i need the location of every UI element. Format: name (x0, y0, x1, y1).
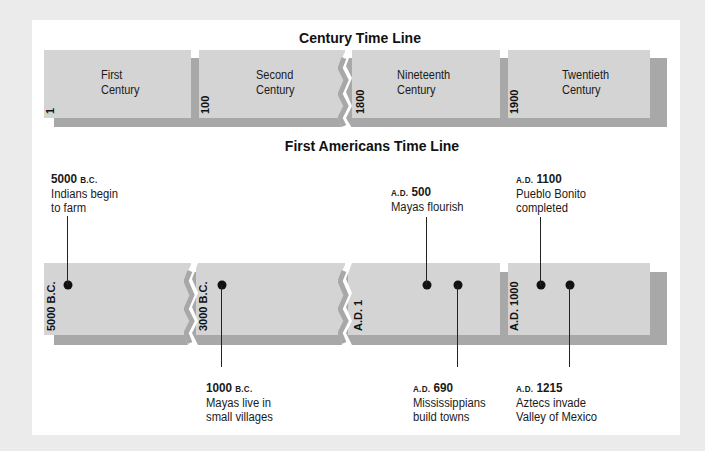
segment-label-line2: Century (101, 83, 140, 98)
event-desc-line1: Mayas live in (206, 396, 273, 410)
event-era: A.D. (516, 175, 533, 185)
event-marker-5000bc (64, 281, 73, 290)
event-leader-line (221, 285, 222, 367)
century-segment-nineteenth: Nineteenth Century 1800 (352, 50, 500, 118)
timeline-break-icon (338, 261, 358, 347)
event-era: A.D. (391, 188, 408, 198)
segment-start-label: 100 (199, 96, 211, 114)
event-marker-ad500 (423, 281, 432, 290)
segment-label-line1: First (101, 68, 140, 83)
event-label-ad500: A.D. 500 Mayas flourish (391, 185, 464, 214)
segment-start-label: 1900 (508, 90, 520, 114)
event-era: B.C. (235, 384, 252, 394)
event-year: 5000 (51, 171, 77, 186)
event-year: 500 (411, 184, 431, 199)
event-era: A.D. (516, 384, 533, 394)
event-desc-line1: Mississippians (413, 396, 486, 410)
timeline-break-icon (184, 261, 204, 347)
segment-start-label: 1 (44, 108, 56, 114)
event-leader-line (426, 217, 427, 285)
segment-label-line1: Twentieth (562, 68, 609, 83)
event-year: 1100 (536, 171, 561, 186)
event-label-ad690: A.D. 690 Mississippians build towns (413, 381, 486, 424)
event-label-1000bc: 1000 B.C. Mayas live in small villages (206, 381, 273, 424)
segment-start-label: A.D. 1000 (508, 281, 520, 331)
event-year: 1000 (206, 380, 232, 395)
event-marker-ad1100 (537, 281, 546, 290)
event-year: 1215 (536, 380, 562, 395)
event-era: B.C. (80, 175, 97, 185)
event-label-ad1215: A.D. 1215 Aztecs invade Valley of Mexico (516, 381, 597, 424)
event-desc-line2: Valley of Mexico (516, 410, 597, 424)
event-desc-line2: small villages (206, 410, 273, 424)
century-segment-first: First Century 1 (44, 50, 191, 118)
segment-label-line2: Century (256, 83, 295, 98)
event-marker-ad1215 (566, 281, 575, 290)
event-desc-line1: Pueblo Bonito (516, 187, 586, 201)
century-segment-twentieth: Twentieth Century 1900 (508, 50, 650, 118)
event-marker-1000bc (218, 281, 227, 290)
event-era: A.D. (413, 384, 430, 394)
event-desc-line2: to farm (51, 201, 118, 215)
event-leader-line (569, 285, 570, 367)
americans-segment-3: A.D. 1 (348, 263, 500, 335)
event-leader-line (67, 216, 68, 285)
event-year: 690 (433, 380, 453, 395)
event-leader-line (457, 285, 458, 367)
event-desc-line1: Mayas flourish (391, 200, 464, 214)
event-desc-line1: Aztecs invade (516, 396, 597, 410)
americans-timeline-title: First Americans Time Line (285, 138, 459, 154)
segment-label-line2: Century (562, 83, 609, 98)
segment-label-line1: Second (256, 68, 295, 83)
americans-segment-4: A.D. 1000 (508, 263, 650, 335)
segment-start-label: 5000 B.C. (45, 281, 57, 331)
event-leader-line (540, 217, 541, 285)
americans-segment-2: 3000 B.C. (196, 263, 345, 335)
event-desc-line2: completed (516, 201, 586, 215)
event-label-ad1100: A.D. 1100 Pueblo Bonito completed (516, 172, 586, 215)
segment-start-label: 1800 (354, 90, 366, 114)
event-label-5000bc: 5000 B.C. Indians begin to farm (51, 172, 118, 215)
century-segment-second: Second Century 100 (199, 50, 345, 118)
event-desc-line1: Indians begin (51, 187, 118, 201)
event-marker-ad690 (454, 281, 463, 290)
event-desc-line2: build towns (413, 410, 486, 424)
segment-label-line2: Century (397, 83, 450, 98)
century-timeline-title: Century Time Line (299, 30, 421, 46)
segment-label-line1: Nineteenth (397, 68, 450, 83)
